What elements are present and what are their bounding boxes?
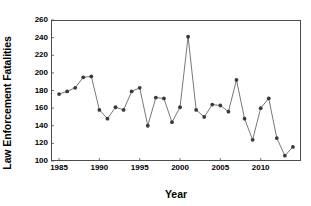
y-tick-label: 120 <box>26 139 48 147</box>
x-tick-label: 2010 <box>241 164 281 172</box>
y-tick-label: 260 <box>26 16 48 24</box>
y-tick-label: 180 <box>26 87 48 95</box>
y-axis-tick-labels: 260240220200180160140120100 <box>24 0 48 206</box>
y-tick-label: 160 <box>26 104 48 112</box>
x-tick-label: 2000 <box>160 164 200 172</box>
y-tick-label: 240 <box>26 34 48 42</box>
y-tick-label: 200 <box>26 69 48 77</box>
chart-figure: Law Enforcement Fatalities 2602402202001… <box>0 0 311 206</box>
x-tick-label: 2005 <box>200 164 240 172</box>
x-tick-label: 1985 <box>39 164 79 172</box>
y-tick-label: 140 <box>26 122 48 130</box>
x-tick-label: 1995 <box>120 164 160 172</box>
x-tick-label: 1990 <box>79 164 119 172</box>
y-axis-title: Law Enforcement Fatalities <box>0 0 14 206</box>
y-tick-label: 220 <box>26 51 48 59</box>
plot-area <box>51 20 301 161</box>
x-axis-title: Year <box>51 188 301 200</box>
